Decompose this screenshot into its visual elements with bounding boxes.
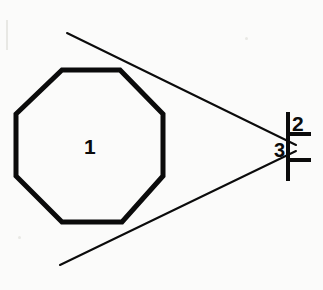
upper-tangent-line bbox=[67, 33, 296, 145]
lower-tangent-line bbox=[60, 151, 296, 265]
label-octagon-number: 1 bbox=[84, 136, 96, 157]
label-apex-dimension-number: 3 bbox=[274, 140, 285, 160]
label-upper-dimension-number: 2 bbox=[292, 113, 304, 134]
figure-container: 1 2 3 bbox=[0, 0, 323, 290]
